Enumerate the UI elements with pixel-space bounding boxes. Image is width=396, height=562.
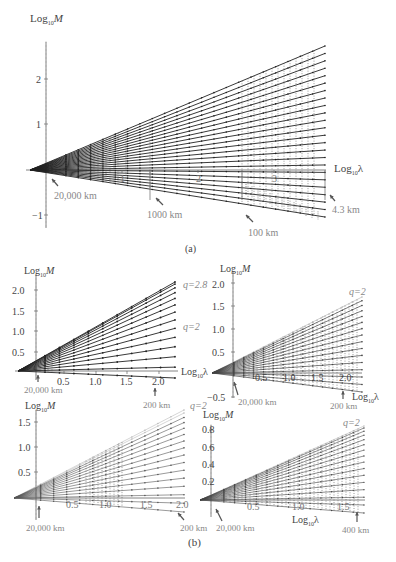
data-point [332, 387, 334, 389]
data-point [183, 511, 185, 513]
data-point [102, 352, 104, 354]
data-point [79, 478, 81, 480]
tr-ytick-0-5: 0.5 [212, 348, 225, 358]
data-point [312, 164, 314, 166]
data-point [145, 297, 147, 299]
data-point [151, 167, 153, 169]
data-point [331, 455, 332, 456]
data-point [282, 351, 284, 353]
data-point [312, 122, 314, 124]
br-ytick-0-8: 0.8 [202, 425, 215, 435]
data-point [102, 328, 104, 330]
data-point [282, 361, 284, 363]
data-point [300, 69, 302, 71]
tl-xtick-1-0: 1.0 [89, 377, 102, 387]
data-point [151, 183, 153, 185]
data-point [170, 472, 172, 474]
data-point [170, 464, 172, 466]
data-point [131, 449, 133, 451]
bl-xtick-0-5: 0.5 [66, 500, 79, 510]
data-point [238, 113, 240, 115]
data-point [92, 468, 94, 470]
data-point [131, 318, 133, 320]
data-point [131, 507, 133, 509]
data-point [213, 138, 215, 140]
data-point [174, 304, 176, 306]
data-point [66, 472, 68, 474]
data-point [353, 497, 354, 498]
data-point [282, 336, 284, 338]
data-point [151, 186, 153, 188]
data-point [87, 368, 89, 370]
data-point [243, 368, 245, 370]
data-point [256, 493, 257, 494]
data-point [250, 143, 252, 145]
tr-annotation-20000km: 20,000 km [238, 398, 277, 407]
data-point [263, 366, 265, 368]
data-point [151, 118, 153, 120]
data-point [226, 131, 228, 133]
data-point [145, 367, 147, 369]
data-point [213, 171, 215, 173]
data-point [288, 490, 289, 491]
data-point [299, 484, 300, 485]
data-point [201, 114, 203, 116]
data-point [53, 484, 55, 486]
data-point [263, 106, 265, 108]
data-point [189, 175, 191, 177]
data-point [302, 366, 304, 368]
data-point [201, 175, 203, 177]
data-point [275, 122, 277, 124]
data-point [302, 338, 304, 340]
data-point [151, 164, 153, 166]
data-point [263, 355, 265, 357]
data-point [174, 327, 176, 329]
data-point [201, 149, 203, 151]
data-point [275, 78, 277, 80]
data-point [92, 481, 94, 483]
data-point [114, 168, 116, 170]
data-point [116, 315, 118, 317]
data-point [66, 496, 68, 498]
data-point [92, 484, 94, 486]
data-point [176, 148, 178, 150]
data-point [79, 473, 81, 475]
data-point [213, 115, 215, 117]
data-point [361, 369, 363, 371]
data-point [263, 148, 265, 150]
data-point [144, 464, 146, 466]
data-point [302, 362, 304, 364]
data-point [144, 459, 146, 461]
data-point [263, 136, 265, 138]
data-point [164, 126, 166, 128]
data-point [79, 496, 81, 498]
data-point [341, 314, 343, 316]
data-point [363, 468, 364, 469]
tr-xtick-0-5: 0.5 [255, 373, 268, 383]
data-point [277, 469, 278, 470]
data-point [53, 491, 55, 493]
bl-ytick-0-5: 0.5 [18, 468, 31, 478]
data-point [127, 140, 129, 142]
data-point [92, 458, 94, 460]
data-point [183, 462, 185, 464]
data-point [144, 482, 146, 484]
data-point [312, 107, 314, 109]
data-point [164, 130, 166, 132]
data-point [256, 484, 257, 485]
data-point [309, 474, 310, 475]
data-point [363, 497, 364, 498]
data-point [53, 487, 55, 489]
data-point [331, 485, 332, 486]
data-point [250, 126, 252, 128]
data-point [322, 322, 324, 324]
data-point [201, 188, 203, 190]
data-point [102, 140, 104, 142]
data-point [127, 128, 129, 130]
data-point [266, 486, 267, 487]
a-ytick-2: 2 [36, 75, 41, 85]
data-point [282, 340, 284, 342]
data-point [189, 158, 191, 160]
data-point [272, 368, 274, 370]
bl-xtick-1-5: 1.5 [140, 500, 153, 510]
